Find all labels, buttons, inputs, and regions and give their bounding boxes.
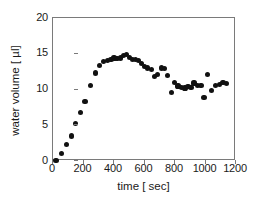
x-tick-mark (113, 160, 114, 164)
x-axis-title: time [ sec] (52, 180, 235, 193)
x-tick-mark (144, 160, 145, 164)
x-tick-mark (174, 160, 175, 164)
water-volume-scatter-chart: 05101520 020040060080010001200 time [ se… (0, 0, 259, 205)
x-tick-mark (83, 160, 84, 164)
x-tick-mark (52, 160, 53, 164)
x-tick-mark (235, 160, 236, 164)
x-tick-mark (205, 160, 206, 164)
x-axis-ticks: 020040060080010001200 (0, 0, 259, 205)
x-tick-label: 1200 (215, 163, 255, 174)
y-axis-title: water volume [ µl] (9, 19, 22, 162)
